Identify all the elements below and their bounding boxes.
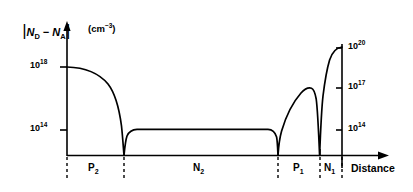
region-label-N2: N2 (193, 163, 204, 173)
doping-profile-curve (67, 47, 342, 156)
y-tick-right-1e14: 1014 (348, 124, 365, 133)
y-tick-left-1e18: 1018 (30, 61, 47, 70)
figure-container: |ND − NA| (cm−3) 1018 1014 1020 1017 101… (0, 0, 413, 192)
region-label-P1: P1 (293, 163, 304, 173)
y-tick-right-1e20: 1020 (348, 42, 365, 51)
y-axis-left (60, 21, 71, 156)
x-axis-label: Distance (351, 163, 395, 174)
y-axis-right (336, 44, 342, 168)
region-label-P2: P2 (88, 163, 99, 173)
y-axis-label: |ND − NA| (22, 22, 70, 39)
y-axis-label-text: ND − NA (26, 26, 65, 38)
region-label-N1: N1 (324, 163, 335, 173)
y-tick-left-1e14: 1014 (30, 124, 47, 133)
x-axis (67, 152, 389, 160)
y-axis-units: (cm−3) (88, 24, 116, 34)
y-tick-right-1e17: 1017 (348, 82, 365, 91)
